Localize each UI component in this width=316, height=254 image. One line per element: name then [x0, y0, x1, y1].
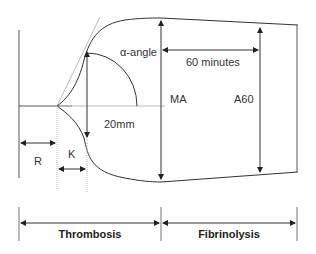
- a60-label: A60: [234, 93, 254, 105]
- r-label: R: [34, 155, 42, 167]
- fibrinolysis-label: Fibrinolysis: [198, 228, 260, 240]
- twenty-mm-label: 20mm: [104, 118, 135, 130]
- alpha-arrow-head: [84, 51, 90, 57]
- alpha-tangent-line: [57, 17, 100, 106]
- thrombosis-label: Thrombosis: [59, 228, 122, 240]
- teg-diagram: α-angle 20mm R K MA A60 60 minutes Throm…: [0, 0, 316, 254]
- ma-label: MA: [170, 93, 187, 105]
- alpha-angle-label: α-angle: [120, 46, 157, 58]
- k-label: K: [68, 148, 76, 160]
- sixty-minutes-label: 60 minutes: [186, 56, 240, 68]
- alpha-angle-arc: [87, 53, 137, 106]
- teg-lower-trace: [57, 106, 298, 182]
